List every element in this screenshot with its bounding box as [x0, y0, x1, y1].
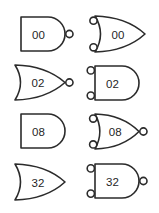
gate-label: 08: [32, 126, 45, 138]
output-bubble-icon: [140, 128, 147, 135]
input-bubble-2-icon: [90, 141, 97, 148]
input-bubble-2-icon: [90, 44, 97, 51]
gate-label: 32: [106, 176, 119, 188]
logic-gate-diagram: 0000020208083232: [0, 0, 159, 213]
input-bubble-2-icon: [87, 92, 94, 99]
gate-label: 02: [106, 78, 119, 90]
output-bubble-icon: [66, 79, 73, 86]
output-bubble-icon: [140, 177, 147, 184]
input-bubble-1-icon: [90, 17, 97, 24]
input-bubble-2-icon: [87, 190, 94, 197]
input-bubble-1-icon: [90, 115, 97, 122]
gate-label: 00: [32, 29, 45, 41]
gate-label: 32: [31, 177, 44, 189]
gate-label: 00: [111, 29, 124, 41]
gate-label: 02: [31, 77, 44, 89]
input-bubble-1-icon: [87, 165, 94, 172]
input-bubble-1-icon: [87, 67, 94, 74]
logic-gate-nand-with-inverted-inputs-32: 32: [83, 152, 151, 210]
output-bubble-icon: [66, 30, 73, 37]
gate-label: 08: [109, 126, 122, 138]
logic-gate-or-32: 32: [3, 152, 77, 212]
